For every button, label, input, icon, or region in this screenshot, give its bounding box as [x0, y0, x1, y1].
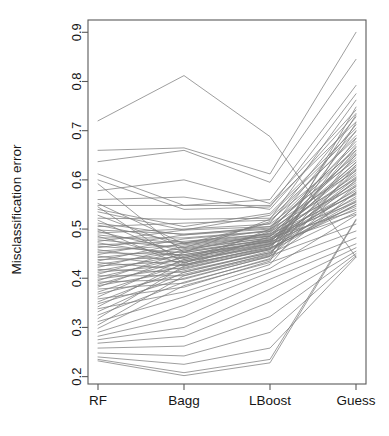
x-tick-label: Bagg — [168, 393, 200, 408]
series-line — [98, 85, 356, 205]
chart-figure: 0.20.30.40.50.60.70.80.9RFBaggLBoostGues… — [0, 0, 389, 436]
parallel-coordinates-plot: 0.20.30.40.50.60.70.80.9RFBaggLBoostGues… — [0, 0, 389, 436]
y-axis: 0.20.30.40.50.60.70.80.9 — [70, 23, 89, 385]
y-tick-label: 0.5 — [70, 220, 85, 238]
y-tick-label: 0.6 — [70, 171, 85, 189]
x-tick-label: LBoost — [249, 393, 291, 408]
series-line — [98, 125, 356, 264]
y-tick-label: 0.8 — [70, 72, 85, 90]
series-line — [98, 131, 356, 297]
series-line — [98, 59, 356, 182]
y-tick-label: 0.9 — [70, 23, 85, 41]
x-axis: RFBaggLBoostGuess — [89, 384, 376, 408]
x-tick-label: RF — [89, 393, 107, 408]
y-tick-label: 0.7 — [70, 122, 85, 140]
series-layer — [98, 32, 356, 375]
series-line — [98, 32, 356, 174]
x-tick-label: Guess — [336, 393, 375, 408]
series-line — [98, 146, 356, 292]
y-tick-label: 0.2 — [70, 368, 85, 386]
y-tick-label: 0.3 — [70, 318, 85, 336]
y-tick-label: 0.4 — [70, 269, 85, 287]
